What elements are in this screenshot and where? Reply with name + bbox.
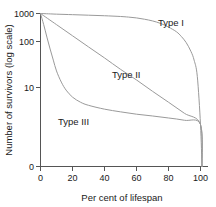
x-tick-label-0: 0 [38,173,43,183]
y-axis-title: Number of survivors (log scale) [3,24,14,155]
x-axis-title: Per cent of lifespan [81,192,162,203]
series-annotations: Type I Type II Type III [58,17,184,127]
x-axis-group: 0 20 40 60 80 100 Per cent of lifespan [38,167,208,204]
x-tick-label-20: 20 [67,173,77,183]
x-tick-label-80: 80 [163,173,173,183]
x-tick-label-40: 40 [99,173,109,183]
y-axis-group: 1000 100 10 0 Number of survivors (log s… [3,9,41,172]
y-tick-label-10: 10 [24,83,34,93]
x-axis-ticks [41,167,201,172]
y-tick-label-1000: 1000 [14,9,34,19]
curve-type-i [41,14,203,167]
y-tick-label-0: 0 [29,162,34,172]
x-axis-tick-labels: 0 20 40 60 80 100 [38,173,208,183]
y-tick-label-100: 100 [19,37,34,47]
chart-canvas: 1000 100 10 0 Number of survivors (log s… [0,0,216,207]
y-axis-ticks [36,14,41,167]
curves-group [41,14,203,167]
survivorship-curve-figure: 1000 100 10 0 Number of survivors (log s… [0,0,216,207]
y-axis-tick-labels: 1000 100 10 0 [14,9,34,172]
x-tick-label-100: 100 [193,173,208,183]
label-type-i: Type I [158,17,184,28]
curve-type-iii [41,14,203,167]
x-tick-label-60: 60 [131,173,141,183]
curve-type-ii [41,14,203,167]
label-type-ii: Type II [112,69,141,80]
label-type-iii: Type III [58,116,89,127]
